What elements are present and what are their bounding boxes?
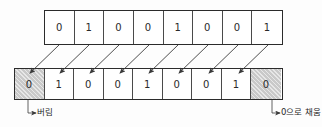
original-bit-cell: 0 xyxy=(104,11,134,44)
original-bit-cell: 1 xyxy=(252,11,282,44)
discard-annotation-label: 버림 xyxy=(37,108,53,117)
shifted-bit-cell-shaded: 0 xyxy=(15,69,45,99)
shifted-bit-cell: 1 xyxy=(45,69,75,99)
leader-line-group xyxy=(28,100,280,113)
shifted-bit-cell: 0 xyxy=(192,69,222,99)
shifted-bit-cell: 0 xyxy=(104,69,134,99)
original-bit-cell: 0 xyxy=(223,11,253,44)
shifted-bit-cell-shaded: 0 xyxy=(251,69,281,99)
shifted-bit-cell: 0 xyxy=(74,69,104,99)
zero-fill-annotation-label: 0으로 채움 xyxy=(281,108,321,117)
shifted-bit-cell: 0 xyxy=(163,69,193,99)
shifted-bit-cell: 1 xyxy=(133,69,163,99)
original-bit-cell: 0 xyxy=(193,11,223,44)
original-bit-cell: 1 xyxy=(75,11,105,44)
original-bit-cell: 0 xyxy=(134,11,164,44)
shift-diagram-canvas: 01001001 010010010 버림 0으로 채움 xyxy=(0,0,322,127)
shifted-bit-cell: 1 xyxy=(222,69,252,99)
original-bit-row: 01001001 xyxy=(44,10,283,45)
original-bit-cell: 0 xyxy=(45,11,75,44)
shifted-bit-row: 010010010 xyxy=(14,68,283,100)
original-bit-cell: 1 xyxy=(164,11,194,44)
